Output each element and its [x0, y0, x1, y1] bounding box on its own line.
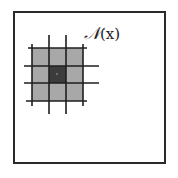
center-point-marker	[56, 73, 58, 75]
neighborhood-grid	[0, 0, 178, 178]
